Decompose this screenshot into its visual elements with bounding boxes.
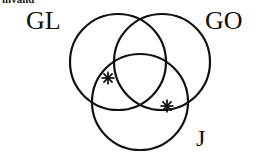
- set-label-go: GO: [205, 8, 243, 34]
- set-label-gl: GL: [26, 8, 61, 34]
- set-label-j: J: [196, 126, 205, 150]
- circle-set-gl: [70, 14, 166, 110]
- venn-diagram-figure: invalid GL GO J: [0, 0, 261, 158]
- circle-set-go: [114, 14, 210, 110]
- circle-set-j: [92, 54, 188, 150]
- asterisk-marker-left-icon: [102, 72, 115, 85]
- asterisk-marker-right-icon: [161, 100, 174, 113]
